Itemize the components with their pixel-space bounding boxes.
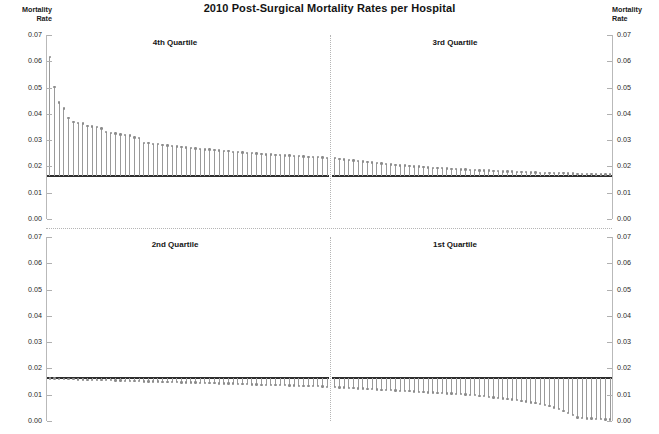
hospital-stem: [219, 150, 220, 176]
hospital-stem: [308, 157, 309, 176]
hospital-marker: [218, 149, 220, 151]
hospital-stem: [134, 138, 135, 177]
hospital-stem: [82, 124, 83, 177]
hospital-stem: [376, 163, 377, 176]
baseline-reference-line: [332, 175, 612, 177]
hospital-marker: [348, 387, 350, 389]
hospital-stem: [572, 378, 573, 415]
hospital-marker: [436, 167, 438, 169]
y-axis-caption-right: MortalityRate: [612, 6, 658, 23]
hospital-marker: [152, 380, 154, 382]
hospital-stem: [266, 154, 267, 176]
hospital-stem: [275, 155, 276, 176]
hospital-marker: [255, 383, 257, 385]
hospital-marker: [199, 382, 201, 384]
y-axis-tick: [607, 395, 612, 396]
hospital-stem: [367, 162, 368, 176]
hospital-marker: [227, 150, 229, 152]
hospital-stem: [428, 167, 429, 176]
hospital-marker: [147, 380, 149, 382]
hospital-stem: [470, 378, 471, 395]
hospital-marker: [284, 384, 286, 386]
hospital-marker: [72, 121, 74, 123]
hospital-marker: [246, 152, 248, 154]
hospital-marker: [530, 171, 532, 173]
hospital-stem: [143, 143, 144, 176]
hospital-marker: [511, 398, 513, 400]
hospital-marker: [82, 378, 84, 380]
hospital-marker: [190, 147, 192, 149]
hospital-stem: [101, 128, 102, 176]
hospital-stem: [284, 155, 285, 176]
hospital-marker: [213, 149, 215, 151]
hospital-stem: [298, 156, 299, 176]
hospital-marker: [366, 388, 368, 390]
hospital-stem: [544, 378, 545, 405]
hospital-stem: [181, 147, 182, 176]
y-axis-tick: [607, 342, 612, 343]
hospital-marker: [483, 395, 485, 397]
y-axis-tick-label: 0.03: [0, 136, 42, 143]
hospital-stem: [381, 378, 382, 390]
hospital-stem: [474, 378, 475, 395]
y-axis-spine-right-bottom: [612, 237, 613, 421]
hospital-stem: [353, 160, 354, 176]
y-axis-tick-label: 0.01: [617, 391, 659, 398]
hospital-marker: [604, 173, 606, 175]
panel-divider-vertical-top: [330, 35, 331, 219]
y-axis-tick: [47, 35, 52, 36]
hospital-stem: [200, 149, 201, 176]
hospital-marker: [124, 134, 126, 136]
hospital-stem: [540, 378, 541, 404]
hospital-stem: [78, 123, 79, 176]
hospital-marker: [161, 144, 163, 146]
hospital-marker: [404, 164, 406, 166]
hospital-marker: [492, 170, 494, 172]
hospital-marker: [506, 398, 508, 400]
panel-divider-horizontal: [46, 228, 612, 229]
hospital-stem: [204, 149, 205, 176]
hospital-marker: [357, 387, 359, 389]
y-axis-tick: [47, 140, 52, 141]
hospital-stem: [437, 168, 438, 176]
hospital-stem: [317, 157, 318, 176]
hospital-marker: [488, 169, 490, 171]
hospital-marker: [338, 158, 340, 160]
hospital-marker: [185, 381, 187, 383]
hospital-stem: [63, 108, 64, 176]
hospital-marker: [525, 400, 527, 402]
y-axis-tick: [607, 263, 612, 264]
hospital-marker: [352, 387, 354, 389]
hospital-stem: [270, 155, 271, 177]
y-axis-tick-label: 0.06: [0, 259, 42, 266]
hospital-marker: [53, 377, 55, 379]
y-axis-tick: [607, 114, 612, 115]
hospital-marker: [218, 382, 220, 384]
hospital-stem: [294, 156, 295, 176]
y-axis-caption-left: MortalityRate: [4, 6, 52, 23]
hospital-marker: [600, 173, 602, 175]
hospital-stem: [339, 159, 340, 176]
hospital-stem: [344, 159, 345, 176]
baseline-reference-line: [332, 377, 612, 379]
hospital-stem: [381, 164, 382, 177]
y-axis-tick: [607, 88, 612, 89]
y-axis-tick: [47, 61, 52, 62]
hospital-marker: [385, 163, 387, 165]
hospital-stem: [68, 118, 69, 176]
hospital-stem: [456, 169, 457, 176]
hospital-marker: [548, 405, 550, 407]
hospital-marker: [534, 171, 536, 173]
hospital-marker: [534, 402, 536, 404]
hospital-marker: [530, 401, 532, 403]
hospital-stem: [432, 168, 433, 176]
hospital-stem: [484, 378, 485, 396]
hospital-stem: [120, 134, 121, 176]
y-axis-tick: [607, 166, 612, 167]
hospital-marker: [441, 392, 443, 394]
hospital-marker: [265, 153, 267, 155]
hospital-marker: [558, 408, 560, 410]
y-axis-tick-label: 0.05: [0, 286, 42, 293]
hospital-marker: [204, 382, 206, 384]
hospital-marker: [166, 381, 168, 383]
